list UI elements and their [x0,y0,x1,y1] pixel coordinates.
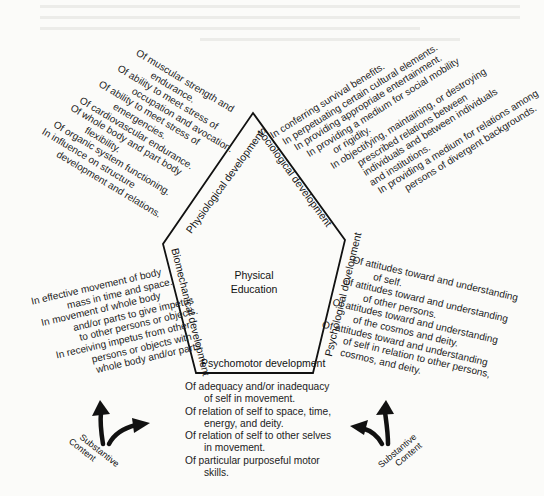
center-title-line1: Physical [223,268,285,282]
side-label-psychomotor: Psychomotor development [201,358,325,369]
list-item: Of relation of self to other selves in m… [185,430,331,455]
substantive-content-left: Substantive Content [78,398,168,478]
forking-arrows-icon [350,398,440,448]
center-title: Physical Education [223,268,285,296]
item-line: of self in movement. [185,393,331,405]
list-item: Of particular purposeful motor skills. [185,455,331,480]
item-line: Of relation of self to other selves [185,430,331,442]
item-line: Of relation of self to space, time, [185,406,331,418]
list-item: Of adequacy and/or inadequacy of self in… [185,381,331,406]
item-line: in movement. [185,442,331,454]
substantive-content-right: Substantive Content [350,398,440,478]
list-item: Of relation of self to space, time, ener… [185,406,331,431]
psychomotor-list: Of adequacy and/or inadequacy of self in… [185,381,331,479]
item-line: skills. [185,467,331,479]
item-line: energy, and deity. [185,418,331,430]
item-line: Of adequacy and/or inadequacy [185,381,331,393]
item-line: Of particular purposeful motor [185,455,331,467]
center-title-line2: Education [223,282,285,296]
